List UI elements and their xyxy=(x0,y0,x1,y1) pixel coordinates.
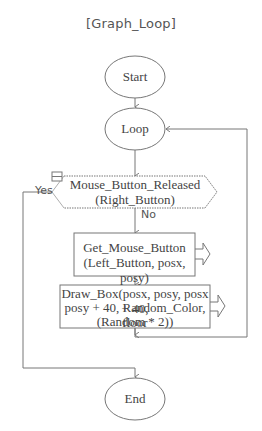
draw-box-label-line3: (Random * 2)) xyxy=(58,314,212,329)
output-arrow-icon-2 xyxy=(210,295,225,317)
get-mouse-label-line2: (Left_Button, posx, posy) xyxy=(74,255,195,285)
yes-label: Yes xyxy=(35,184,53,197)
flowchart-canvas xyxy=(0,0,262,431)
no-label: No xyxy=(141,208,156,221)
get-mouse-label-line1: Get_Mouse_Button xyxy=(74,240,195,255)
end-label: End xyxy=(105,391,165,406)
decision-label-line1: Mouse_Button_Released xyxy=(55,177,215,192)
output-arrow-icon xyxy=(195,243,210,265)
loop-label: Loop xyxy=(105,121,165,136)
start-label: Start xyxy=(105,69,165,84)
decision-label-line2: (Right_Button) xyxy=(55,192,215,207)
